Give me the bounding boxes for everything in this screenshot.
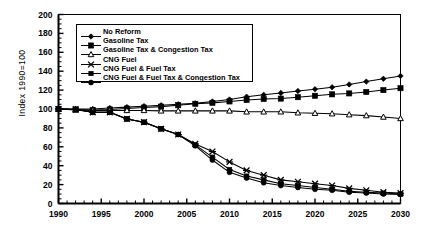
legend-marker-filled-square-small-icon [80,64,102,73]
series-4 [55,106,404,196]
circle-marker [210,158,215,163]
triangle-marker [175,108,181,113]
triangle-marker [398,115,404,120]
data-point-marker [295,88,300,93]
chart-legend: No ReformGasoline TaxGasoline Tax & Cong… [76,24,253,82]
circle-marker [347,190,352,195]
circle-marker [364,191,369,196]
y-tick-label: 200 [27,10,53,20]
data-point-marker [329,85,334,90]
data-point-marker [278,109,284,114]
circle-marker [261,180,266,185]
y-tick-label: 100 [27,104,53,114]
circle-marker [90,110,95,115]
legend-marker-open-triangle-icon [80,45,102,54]
y-tick-label: 60 [27,142,53,152]
data-point-marker [56,107,61,112]
data-point-marker [278,90,283,95]
data-point-marker [261,109,267,114]
data-point-marker [347,190,352,195]
data-point-marker [226,159,233,165]
legend-item-5[interactable]: CNG Fuel & Fuel Tax [80,64,249,73]
triangle-marker [312,110,318,115]
series-6 [56,107,403,198]
legend-label: No Reform [103,27,141,36]
legend-item-1[interactable]: No Reform [80,27,249,36]
data-point-marker [381,114,387,119]
circle-marker [381,192,386,197]
circle-marker [107,110,112,115]
square-marker [312,93,317,98]
y-tick-label: 180 [27,28,53,38]
circle-marker [398,192,403,197]
data-point-marker [295,110,301,115]
data-point-marker [261,180,266,185]
legend-label: CNG Fuel [103,55,137,64]
x-tick-label: 2025 [338,209,378,219]
data-point-marker [364,113,370,118]
data-point-marker [210,108,216,113]
y-tick-label: 160 [27,47,53,57]
triangle-marker [261,109,267,114]
data-point-marker [329,111,335,116]
x-tick-label: 2010 [210,209,250,219]
diamond-marker [295,88,300,93]
data-point-marker [193,101,198,106]
circle-marker [295,185,300,190]
legend-item-3[interactable]: Gasoline Tax & Congestion Tax [80,45,249,54]
triangle-marker [346,112,352,117]
diamond-marker [347,82,352,87]
triangle-marker [244,109,250,114]
series-5 [55,107,403,196]
data-point-marker [107,110,112,115]
diamond-marker [312,86,317,91]
square-marker [364,89,369,94]
circle-marker [193,143,198,148]
data-point-marker [330,92,335,97]
data-point-marker [398,115,404,120]
square-marker [227,99,232,104]
square-marker [330,92,335,97]
data-point-marker [313,187,318,192]
legend-label: CNG Fuel & Fuel Tax & Congestion Tax [103,73,240,82]
data-point-marker [210,158,215,163]
data-point-marker [398,86,403,91]
y-tick-label: 140 [27,66,53,76]
data-point-marker [381,192,386,197]
data-point-marker [347,82,352,87]
data-point-marker [381,76,386,81]
data-point-marker [227,108,233,113]
x-tick-label: 2000 [124,209,164,219]
data-point-marker [261,96,266,101]
data-point-marker [330,188,335,193]
triangle-marker [278,109,284,114]
circle-marker [176,132,181,137]
x-tick-label: 2030 [381,209,421,219]
legend-item-4[interactable]: CNG Fuel [80,55,249,64]
diamond-marker [278,90,283,95]
legend-label: Gasoline Tax & Congestion Tax [103,45,213,54]
legend-marker-diamond-icon [80,27,102,36]
data-point-marker [142,120,147,125]
data-point-marker [278,96,283,101]
series-line [59,109,401,194]
y-tick-label: 120 [27,85,53,95]
circle-marker [278,183,283,188]
circle-marker [142,120,147,125]
circle-marker [73,107,78,112]
legend-item-2[interactable]: Gasoline Tax [80,36,249,45]
diamond-marker [398,73,403,78]
series-line [59,109,401,195]
circle-marker [159,126,164,131]
series-line [59,109,401,193]
data-point-marker [364,79,369,84]
data-point-marker [90,110,95,115]
triangle-marker [329,111,335,116]
diamond-marker [381,76,386,81]
legend-item-6[interactable]: CNG Fuel & Fuel Tax & Congestion Tax [80,73,249,82]
square-marker [278,96,283,101]
data-point-marker [278,183,283,188]
data-point-marker [312,86,317,91]
x-tick-label: 2020 [295,209,335,219]
x-tick-label: 1990 [39,209,79,219]
